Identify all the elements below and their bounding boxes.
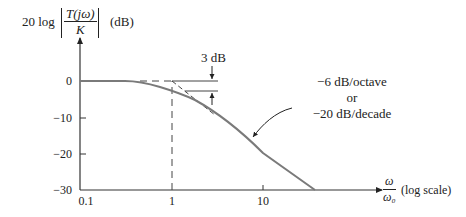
x-axis-label-denominator: ω₀ — [383, 190, 396, 205]
y-axis-label-unit: (dB) — [110, 14, 134, 30]
x-axis-label-fraction: ω ω₀ — [383, 174, 396, 205]
x-tick-label: 0.1 — [66, 194, 106, 209]
y-tick-label: 0 — [32, 74, 72, 89]
y-ticks — [80, 81, 86, 154]
slope-annotation-line2: or — [292, 90, 412, 106]
y-tick-label: −20 — [32, 147, 72, 162]
response-curve — [80, 81, 315, 190]
y-axis-label-abs-right — [98, 8, 99, 38]
y-axis-label-prefix: 20 log — [22, 14, 55, 30]
slope-annotation-line3: −20 dB/decade — [292, 106, 412, 122]
slope-annotation-line1: −6 dB/octave — [292, 74, 412, 90]
y-axis-label-numerator: T(jω) — [64, 6, 97, 22]
three-db-label: 3 dB — [201, 50, 226, 66]
x-axis-label-numerator: ω — [383, 174, 395, 190]
asymptote-slope — [172, 81, 215, 115]
slope-annotation-arrow — [253, 108, 292, 137]
y-axis-label-fraction: T(jω) K — [64, 6, 97, 37]
y-axis-label-denominator: K — [76, 22, 85, 37]
x-axis-label-suffix: (log scale) — [401, 183, 451, 198]
slope-annotation: −6 dB/octave or −20 dB/decade — [292, 74, 412, 122]
x-tick-label: 1 — [152, 194, 192, 209]
y-axis-label-abs-left — [61, 8, 62, 38]
x-tick-label: 10 — [243, 194, 283, 209]
y-tick-label: −10 — [32, 111, 72, 126]
